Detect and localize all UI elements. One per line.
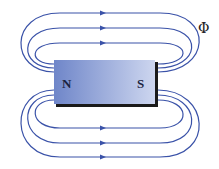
field-lines-svg: [0, 0, 219, 169]
arrow-right-icon: [100, 41, 106, 46]
flux-symbol-label: Φ: [198, 20, 209, 36]
south-pole-label: S: [137, 76, 144, 92]
arrow-right-icon: [100, 26, 106, 31]
north-pole-label: N: [62, 76, 71, 92]
arrow-right-icon: [100, 126, 106, 131]
magnet-diagram: N S Φ: [0, 0, 219, 169]
arrow-right-icon: [100, 11, 106, 16]
arrow-right-icon: [100, 141, 106, 146]
arrow-right-icon: [100, 155, 106, 160]
